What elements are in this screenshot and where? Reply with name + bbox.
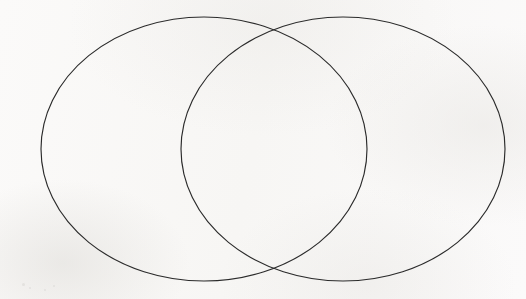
venn-circle-left[interactable] xyxy=(41,17,367,281)
venn-circle-right[interactable] xyxy=(181,17,505,281)
venn-diagram-svg xyxy=(0,0,526,299)
venn-diagram-canvas xyxy=(0,0,526,299)
